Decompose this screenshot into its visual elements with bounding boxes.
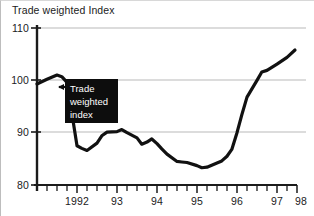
chart-plot-area [1, 1, 314, 216]
series-callout-label: Trade weighted index [65, 79, 118, 123]
x-tick-label-94: 94 [151, 195, 163, 207]
y-tick-label-110: 110 [3, 22, 29, 34]
x-tick-label-96: 96 [231, 195, 243, 207]
callout-line-1: Trade [70, 82, 114, 95]
x-tick-label-97: 97 [271, 195, 283, 207]
x-tick-label-95: 95 [191, 195, 203, 207]
x-tick-label-98: 98 [295, 195, 307, 207]
trade-weighted-index-chart: Trade weighted Index [0, 0, 314, 216]
x-axis-ticks [47, 185, 297, 193]
callout-line-2: weighted [70, 95, 114, 108]
y-tick-label-80: 80 [3, 179, 29, 191]
x-tick-label-93: 93 [111, 195, 123, 207]
callout-line-3: index [70, 108, 114, 121]
x-tick-label-1992: 1992 [65, 195, 89, 207]
y-tick-label-100: 100 [3, 74, 29, 86]
y-tick-label-90: 90 [3, 126, 29, 138]
